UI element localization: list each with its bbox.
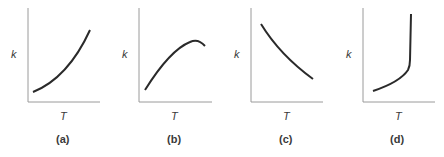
curve-d: [373, 14, 411, 91]
panel-label-c: (c): [279, 133, 292, 145]
ylabel-c: k: [234, 48, 240, 60]
axes-d: [363, 8, 435, 102]
ylabel-a: k: [11, 48, 17, 60]
xlabel-d: T: [395, 110, 402, 122]
panel-c-plot: [251, 8, 323, 102]
ylabel-b: k: [122, 48, 128, 60]
panel-label-a: (a): [56, 133, 69, 145]
curve-c: [261, 24, 313, 79]
curve-a: [33, 30, 90, 92]
xlabel-a: T: [60, 110, 67, 122]
panel-b-plot: [139, 8, 212, 102]
panel-label-b: (b): [167, 133, 181, 145]
panel-a-plot: [28, 8, 100, 102]
axes-b: [139, 8, 212, 102]
ylabel-d: k: [346, 48, 352, 60]
curve-b: [145, 41, 205, 90]
panel-label-d: (d): [390, 133, 404, 145]
xlabel-c: T: [283, 110, 290, 122]
xlabel-b: T: [171, 110, 178, 122]
panel-d-plot: [363, 8, 435, 102]
axes-c: [251, 8, 323, 102]
axes-a: [28, 8, 100, 102]
